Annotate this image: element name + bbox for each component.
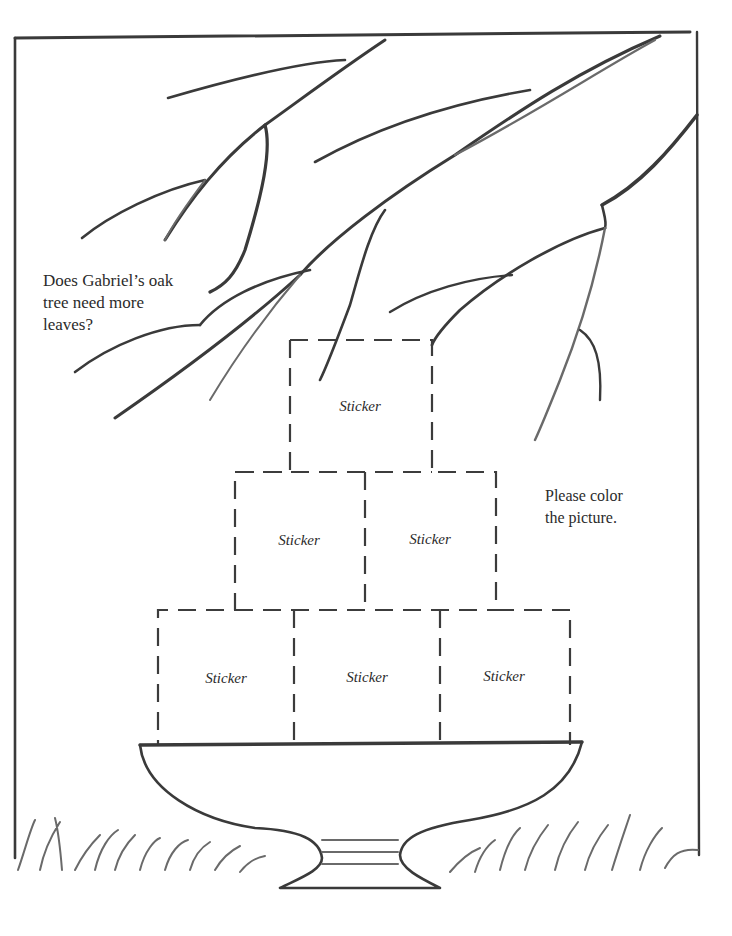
sticker-label: Sticker: [205, 670, 247, 687]
sticker-label: Sticker: [346, 669, 388, 686]
caption-line: the picture.: [545, 507, 623, 529]
pedestal-bowl: [140, 742, 582, 888]
coloring-page: Does Gabriel’s oak tree need more leaves…: [0, 0, 732, 936]
caption-line: Please color: [545, 485, 623, 507]
instruction-caption: Please color the picture.: [545, 485, 623, 529]
caption-line: Does Gabriel’s oak: [43, 270, 173, 292]
caption-line: tree need more: [43, 292, 173, 314]
question-caption: Does Gabriel’s oak tree need more leaves…: [43, 270, 173, 336]
sticker-label: Sticker: [409, 531, 451, 548]
sticker-label: Sticker: [483, 668, 525, 685]
caption-line: leaves?: [43, 314, 173, 336]
sticker-label: Sticker: [278, 532, 320, 549]
sticker-label: Sticker: [339, 398, 381, 415]
